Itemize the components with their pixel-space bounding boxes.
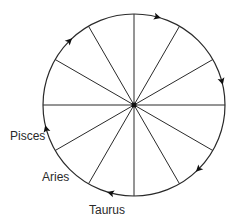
zodiac-wheel-diagram: Pisces Aries Taurus <box>0 0 233 224</box>
label-taurus: Taurus <box>89 203 125 217</box>
spoke-line <box>134 105 213 151</box>
spoke-line <box>55 60 134 106</box>
spoke-line <box>134 26 180 105</box>
spoke-line <box>55 105 134 151</box>
label-aries: Aries <box>42 170 69 184</box>
wheel-center-dot <box>132 103 137 108</box>
spoke-line <box>89 105 135 184</box>
spoke-line <box>134 105 180 184</box>
spoke-line <box>89 26 135 105</box>
label-pisces: Pisces <box>10 129 45 143</box>
spoke-line <box>134 60 213 106</box>
